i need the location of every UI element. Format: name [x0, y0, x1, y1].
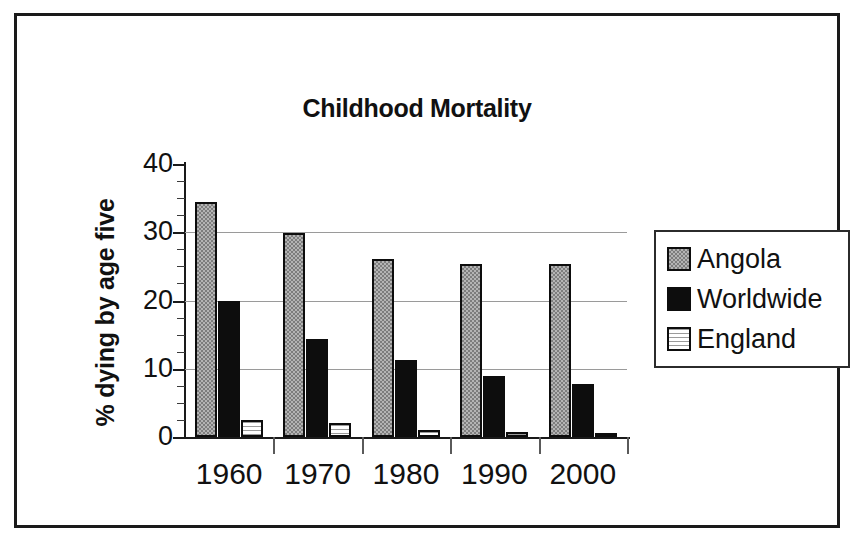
legend-item-england: England — [667, 322, 796, 356]
y-axis-major-tick — [173, 232, 185, 234]
plot-area — [185, 164, 627, 437]
y-axis-minor-tick — [177, 181, 185, 182]
bar-angola-2000 — [549, 264, 571, 437]
bar-group — [273, 164, 361, 437]
x-axis-tick-label-1960: 1960 — [185, 459, 273, 489]
x-axis-tick-label-1990: 1990 — [450, 459, 538, 489]
y-axis-minor-tick — [177, 420, 185, 421]
x-axis-line — [185, 437, 630, 439]
bar-worldwide-2000 — [572, 384, 594, 437]
legend-item-angola: Angola — [667, 242, 781, 276]
bar-group — [539, 164, 627, 437]
bar-worldwide-1970 — [306, 339, 328, 437]
chart-legend: AngolaWorldwideEngland — [654, 230, 850, 368]
bar-worldwide-1990 — [483, 376, 505, 437]
image-border-frame: Childhood Mortality % dying by age five … — [14, 13, 840, 528]
y-axis-tick-labels: 403020100 — [113, 164, 173, 437]
x-axis-tick-label-2000: 2000 — [539, 459, 627, 489]
y-axis-minor-tick — [177, 249, 185, 250]
bar-england-1980 — [418, 430, 440, 438]
bar-group — [185, 164, 273, 437]
y-axis-major-tick — [173, 301, 185, 303]
bar-england-1990 — [506, 432, 528, 437]
bar-england-1960 — [241, 420, 263, 437]
bar-worldwide-1980 — [395, 360, 417, 437]
y-axis-minor-tick — [177, 335, 185, 336]
y-axis-minor-tick — [177, 318, 185, 319]
x-axis-category-tick — [362, 437, 364, 454]
y-axis-major-tick — [173, 437, 185, 439]
y-axis-minor-tick — [177, 403, 185, 404]
bar-group — [362, 164, 450, 437]
x-axis-tick-label-1970: 1970 — [273, 459, 361, 489]
y-axis-tick-label: 30 — [117, 218, 173, 245]
bar-worldwide-1960 — [218, 301, 240, 437]
bar-england-1970 — [329, 423, 351, 437]
y-axis-tick-label: 0 — [117, 423, 173, 450]
x-axis-category-tick — [627, 437, 629, 454]
x-axis-category-tick — [539, 437, 541, 454]
legend-label: Angola — [697, 246, 781, 273]
x-axis-tick-label-1980: 1980 — [362, 459, 450, 489]
legend-label: Worldwide — [697, 286, 823, 313]
bar-angola-1970 — [283, 233, 305, 437]
y-axis-tick-label: 40 — [117, 150, 173, 177]
y-axis-minor-tick — [177, 283, 185, 284]
bar-angola-1960 — [195, 202, 217, 437]
y-axis-minor-tick — [177, 266, 185, 267]
y-axis-minor-tick — [177, 352, 185, 353]
y-axis-minor-tick — [177, 215, 185, 216]
chart-page: Childhood Mortality % dying by age five … — [0, 0, 852, 539]
legend-item-worldwide: Worldwide — [667, 282, 823, 316]
y-axis-tick-label: 10 — [117, 355, 173, 382]
bar-group — [450, 164, 538, 437]
legend-label: England — [697, 326, 796, 353]
bar-england-2000 — [595, 433, 617, 437]
bar-angola-1980 — [372, 259, 394, 437]
bar-angola-1990 — [460, 264, 482, 437]
y-axis-tick-label: 20 — [117, 287, 173, 314]
x-axis-category-tick — [450, 437, 452, 454]
y-axis-major-tick — [173, 369, 185, 371]
y-axis-minor-tick — [177, 386, 185, 387]
x-axis-category-tick — [273, 437, 275, 454]
legend-swatch-england-icon — [667, 327, 691, 351]
legend-swatch-worldwide-icon — [667, 287, 691, 311]
legend-swatch-angola-icon — [667, 247, 691, 271]
chart-title: Childhood Mortality — [197, 94, 637, 123]
x-axis-tick-labels: 19601970198019902000 — [185, 459, 627, 499]
y-axis-minor-tick — [177, 198, 185, 199]
y-axis-major-tick — [173, 164, 185, 166]
